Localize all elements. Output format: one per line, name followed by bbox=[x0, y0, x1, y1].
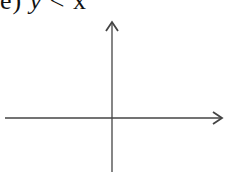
coordinate-axes bbox=[0, 0, 225, 172]
